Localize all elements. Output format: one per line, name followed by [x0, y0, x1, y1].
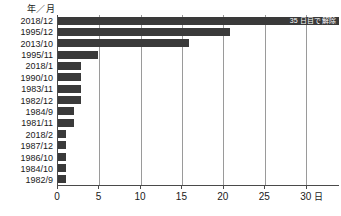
bar [58, 141, 66, 149]
bar [58, 175, 66, 183]
category-label: 1981/11 [0, 118, 55, 129]
x-axis-tick-label: 25 [259, 191, 270, 203]
bar-row: 35 日目で解除 [58, 15, 339, 26]
bar [58, 39, 189, 47]
x-axis-tick-label: 0 [54, 191, 60, 203]
category-label: 2018/12 [0, 15, 55, 26]
category-label: 1984/9 [0, 106, 55, 117]
category-label: 1986/10 [0, 152, 55, 163]
x-axis-tick-label: 5 [96, 191, 102, 203]
x-axis-tick-label: 20 [217, 191, 228, 203]
bar-row [58, 26, 339, 37]
x-axis-tick [98, 186, 99, 189]
category-label: 1995/12 [0, 26, 55, 37]
category-label: 1984/10 [0, 163, 55, 174]
bar-row [58, 174, 339, 185]
bar [58, 96, 81, 104]
bar-row [58, 94, 339, 105]
x-axis-tick [223, 186, 224, 189]
bar-annotation: 35 日目で解除 [290, 17, 339, 25]
category-label: 2013/10 [0, 38, 55, 49]
x-axis-tick [306, 186, 307, 189]
bar [58, 119, 74, 127]
x-axis-unit-label: 日 [314, 191, 323, 203]
bar [58, 130, 66, 138]
category-label: 1983/11 [0, 83, 55, 94]
bar-chart: 年／月 2018/121995/122013/101995/112018/119… [0, 0, 341, 216]
category-label: 1990/10 [0, 72, 55, 83]
x-axis-tick [181, 186, 182, 189]
bar [58, 28, 230, 36]
x-axis-tick-label: 15 [176, 191, 187, 203]
bar [58, 85, 81, 93]
bar [58, 107, 74, 115]
bar-row [58, 49, 339, 60]
bar-row [58, 38, 339, 49]
bar-row [58, 106, 339, 117]
x-axis-tick [264, 186, 265, 189]
category-label: 2018/2 [0, 129, 55, 140]
bar-row [58, 117, 339, 128]
bar: 35 日目で解除 [58, 17, 339, 25]
bar [58, 62, 81, 70]
bar-row [58, 83, 339, 94]
bar-series: 35 日目で解除 [58, 15, 339, 185]
category-label: 1987/12 [0, 140, 55, 151]
bar [58, 51, 98, 59]
bar-row [58, 140, 339, 151]
category-label: 1995/11 [0, 49, 55, 60]
bar [58, 164, 66, 172]
plot-area: 35 日目で解除 [57, 15, 339, 186]
x-axis-tick [57, 186, 58, 189]
y-axis-header-label: 年／月 [0, 4, 55, 14]
x-axis-tick-label: 30 [300, 191, 311, 203]
bar [58, 73, 81, 81]
x-axis-tick-label: 10 [134, 191, 145, 203]
category-label: 1982/9 [0, 175, 55, 186]
bar-row [58, 151, 339, 162]
bar-row [58, 162, 339, 173]
bar-row [58, 60, 339, 71]
x-axis-tick [140, 186, 141, 189]
bar [58, 153, 66, 161]
bar-row [58, 128, 339, 139]
bar-row [58, 72, 339, 83]
category-label: 1982/12 [0, 95, 55, 106]
x-axis: 051015202530日 [57, 186, 339, 214]
category-label: 2018/1 [0, 61, 55, 72]
category-label-column: 2018/121995/122013/101995/112018/11990/1… [0, 15, 55, 186]
